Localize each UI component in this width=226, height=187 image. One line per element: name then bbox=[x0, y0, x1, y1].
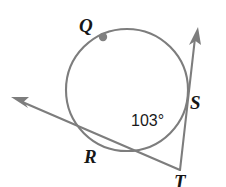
point-label-r: R bbox=[84, 147, 97, 166]
point-label-t: T bbox=[174, 172, 186, 187]
angle-measure-label: 103° bbox=[131, 113, 164, 129]
point-marker-q bbox=[99, 33, 107, 41]
geometry-figure: Q S R T 103° bbox=[0, 0, 226, 187]
ray-t-through-r-arrowhead bbox=[11, 97, 29, 108]
circle-shape bbox=[66, 29, 188, 151]
point-label-q: Q bbox=[79, 16, 93, 35]
point-label-s: S bbox=[190, 93, 201, 112]
